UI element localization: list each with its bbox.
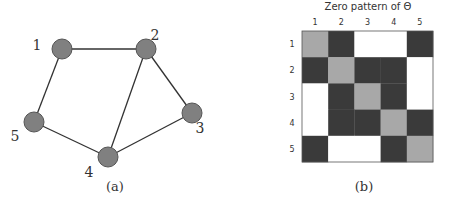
cell-5-4 xyxy=(381,136,408,163)
cell-3-5 xyxy=(407,83,434,110)
cell-4-5 xyxy=(407,110,434,137)
cell-5-3 xyxy=(354,136,381,163)
col-label-2: 2 xyxy=(339,18,344,27)
col-label-1: 1 xyxy=(313,18,318,27)
cell-4-1 xyxy=(302,110,329,137)
cell-5-1 xyxy=(302,136,329,163)
graph-edges xyxy=(34,49,192,157)
node-label-3: 3 xyxy=(196,120,205,136)
graph-nodes: 12345 xyxy=(11,27,205,180)
edge-4-5 xyxy=(34,122,108,157)
cell-2-5 xyxy=(407,57,434,83)
cell-3-4 xyxy=(381,83,408,110)
graph-panel: 12345 (a) xyxy=(11,27,205,194)
node-label-4: 4 xyxy=(85,164,94,180)
cell-5-2 xyxy=(328,136,355,163)
row-label-4: 4 xyxy=(289,119,294,128)
caption-a: (a) xyxy=(106,179,124,194)
figure: 12345 (a) Zero pattern of Θ 12345 12345 … xyxy=(0,0,449,209)
cell-2-4 xyxy=(381,57,408,83)
edge-1-5 xyxy=(34,49,62,122)
cell-1-5 xyxy=(407,31,434,58)
node-label-5: 5 xyxy=(11,128,20,144)
edge-2-3 xyxy=(146,49,192,113)
cell-3-2 xyxy=(328,83,355,110)
cell-2-1 xyxy=(302,57,329,83)
row-label-3: 3 xyxy=(289,93,294,102)
row-label-5: 5 xyxy=(289,145,294,154)
cell-4-2 xyxy=(328,110,355,137)
col-label-5: 5 xyxy=(417,18,422,27)
cell-1-4 xyxy=(381,31,408,58)
node-label-2: 2 xyxy=(151,27,160,43)
matrix-cells xyxy=(302,31,433,162)
node-1 xyxy=(52,39,72,59)
node-label-1: 1 xyxy=(33,37,42,53)
cell-4-4 xyxy=(381,110,408,137)
cell-2-3 xyxy=(354,57,381,83)
cell-2-2 xyxy=(328,57,355,83)
row-labels: 12345 xyxy=(289,40,294,154)
column-labels: 12345 xyxy=(313,18,423,27)
caption-b: (b) xyxy=(355,179,373,194)
cell-5-5 xyxy=(407,136,434,163)
node-5 xyxy=(24,112,44,132)
cell-3-3 xyxy=(354,83,381,110)
matrix-title: Zero pattern of Θ xyxy=(325,1,412,12)
cell-1-3 xyxy=(354,31,381,58)
matrix-panel: Zero pattern of Θ 12345 12345 (b) xyxy=(289,1,433,194)
cell-1-2 xyxy=(328,31,355,58)
col-label-3: 3 xyxy=(365,18,370,27)
cell-4-3 xyxy=(354,110,381,137)
cell-1-1 xyxy=(302,31,329,58)
node-4 xyxy=(98,147,118,167)
row-label-1: 1 xyxy=(289,40,294,49)
cell-3-1 xyxy=(302,83,329,110)
col-label-4: 4 xyxy=(391,18,396,27)
row-label-2: 2 xyxy=(289,66,294,75)
